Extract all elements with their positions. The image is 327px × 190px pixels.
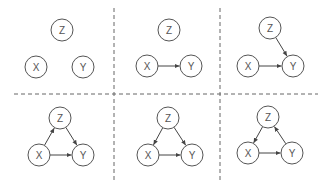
node-label: Z (165, 113, 171, 124)
node-label: Y (80, 150, 87, 161)
node-y: Y (281, 142, 303, 164)
node-label: X (33, 62, 40, 73)
panel-2: ZXY (136, 19, 202, 77)
node-label: Z (59, 25, 65, 36)
edge-z-to-x (153, 128, 162, 145)
edge-z-to-y (66, 127, 77, 145)
node-z: Z (257, 106, 279, 128)
node-label: Y (188, 61, 195, 72)
node-label: Y (289, 148, 296, 159)
node-label: Z (166, 25, 172, 36)
node-y: Y (181, 144, 203, 166)
node-z: Z (51, 19, 73, 41)
node-y: Y (180, 55, 202, 77)
panel-1: ZXY (25, 19, 94, 78)
node-y: Y (72, 144, 94, 166)
node-x: X (137, 144, 159, 166)
node-label: X (245, 148, 252, 159)
causal-graph-grid: ZXYZXYZXYZXYZXYZXY (0, 0, 327, 190)
node-z: Z (49, 107, 71, 129)
node-label: Z (265, 112, 271, 123)
node-x: X (237, 55, 259, 77)
edge-z-to-x (254, 127, 263, 143)
edge-x-to-z (44, 128, 54, 145)
node-label: X (245, 61, 252, 72)
panel-6: ZXY (237, 106, 303, 164)
node-label: X (145, 150, 152, 161)
node-label: Y (290, 61, 297, 72)
node-label: Z (267, 23, 273, 34)
node-label: X (144, 61, 151, 72)
node-z: Z (259, 17, 281, 39)
panel-3: ZXY (237, 17, 304, 77)
panel-4: ZXY (28, 107, 94, 166)
node-x: X (237, 142, 259, 164)
edge-y-to-z (274, 127, 286, 144)
node-y: Y (282, 55, 304, 77)
node-label: Y (189, 150, 196, 161)
graph-panels: ZXYZXYZXYZXYZXYZXY (25, 17, 304, 166)
edge-z-to-y (174, 127, 186, 145)
node-x: X (25, 56, 47, 78)
node-x: X (28, 144, 50, 166)
node-label: Z (57, 113, 63, 124)
node-z: Z (158, 19, 180, 41)
node-label: X (36, 150, 43, 161)
node-z: Z (157, 107, 179, 129)
edge-z-to-y (276, 37, 287, 56)
node-x: X (136, 55, 158, 77)
node-label: Y (80, 62, 87, 73)
node-y: Y (72, 56, 94, 78)
panel-5: ZXY (137, 107, 203, 166)
